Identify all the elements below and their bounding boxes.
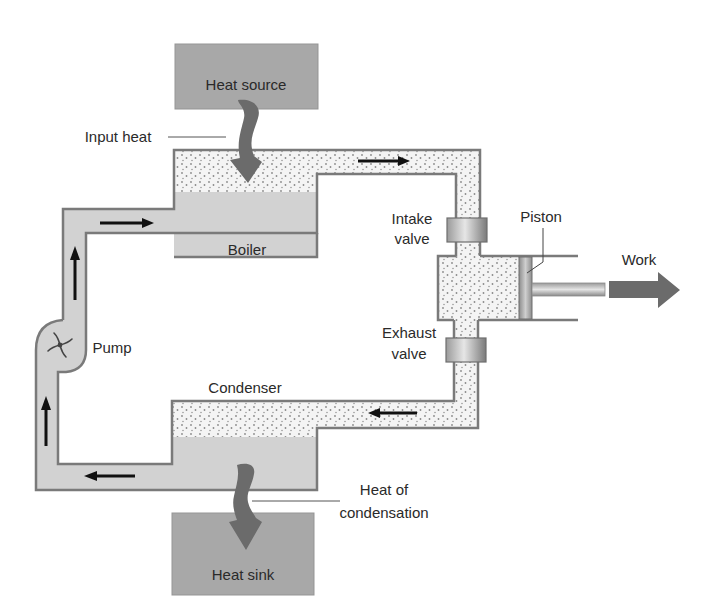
piston-label: Piston [520,208,562,225]
work-arrow-icon [609,272,680,308]
condenser-label: Condenser [208,379,281,396]
heat-of-condensation-label-1: Heat of [360,481,409,498]
heat-of-condensation-label-2: condensation [339,504,428,521]
piston-rod [532,283,605,296]
exhaust-valve-label-1: Exhaust [382,324,437,341]
intake-valve-label-2: valve [394,230,429,247]
input-heat-label: Input heat [85,128,153,145]
exhaust-valve-label-2: valve [391,345,426,362]
liquid-pipe-upper-left [63,174,174,320]
steam-engine-diagram: Heat source Heat sink [0,0,724,615]
intake-valve-label-1: Intake [392,210,433,227]
heat-sink-label: Heat sink [212,566,275,583]
work-label: Work [622,251,657,268]
pipe-loop [36,150,578,490]
exhaust-valve [446,338,486,362]
heat-source: Heat source [175,44,318,109]
heat-source-label: Heat source [206,76,287,93]
piston [519,257,532,319]
boiler-label: Boiler [228,241,266,258]
intake-valve [447,218,487,242]
pump-label: Pump [92,339,131,356]
